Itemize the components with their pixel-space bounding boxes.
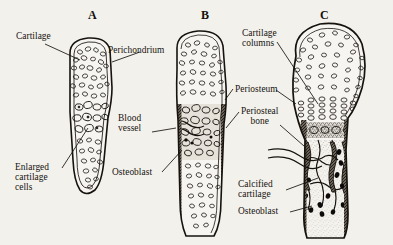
label-osteoblast-left: Osteoblast bbox=[112, 167, 152, 177]
label-enlarged-cartilage-cells: Enlarged cartilage cells bbox=[15, 162, 49, 193]
label-perichondrium: Perichondrium bbox=[108, 45, 164, 55]
label-blood-vessel: Blood vessel bbox=[118, 113, 141, 133]
leader-periosteal-bone-left bbox=[226, 112, 239, 128]
stage-letter-a: A bbox=[88, 8, 97, 23]
stage-letter-b: B bbox=[201, 8, 209, 23]
stage-letter-c: C bbox=[320, 8, 329, 23]
label-calcified-cartilage: Calcified cartilage bbox=[238, 179, 273, 199]
label-osteoblast-right: Osteoblast bbox=[238, 206, 278, 216]
label-periosteum: Periosteum bbox=[235, 84, 278, 94]
label-cartilage-columns: Cartilage columns bbox=[242, 28, 277, 48]
label-cartilage: Cartilage bbox=[16, 31, 51, 41]
stage-c-ossification-center bbox=[268, 18, 375, 243]
leader-blood-vessel bbox=[152, 128, 176, 132]
stage-b-periosteal-collar bbox=[168, 25, 232, 240]
label-periosteal-bone: Periosteal bone bbox=[241, 106, 278, 126]
endochondral-ossification-figure bbox=[0, 0, 393, 245]
